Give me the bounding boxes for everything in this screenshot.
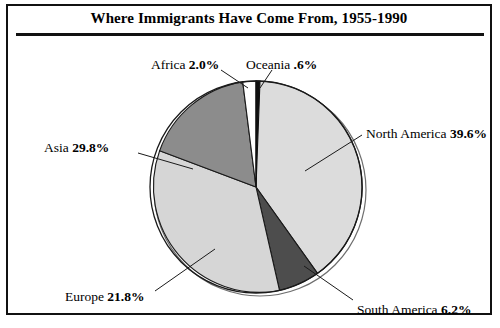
chart-frame: Where Immigrants Have Come From, 1955-19… (6, 4, 492, 315)
pie-label-oceania-name: Oceania (246, 57, 290, 72)
pie-label-oceania-value: .6% (294, 57, 318, 72)
pie-label-south-america-value: 6.2% (441, 302, 471, 317)
pie-label-europe-name: Europe (65, 289, 104, 304)
pie-label-asia: Asia 29.8% (44, 141, 109, 155)
pie-label-europe: Europe 21.8% (65, 290, 144, 304)
pie-label-asia-value: 29.8% (72, 140, 109, 155)
pie-label-south-america-name: South America (357, 302, 438, 317)
pie-chart-plot-area: Africa 2.0% Oceania .6% North America 39… (8, 36, 490, 313)
pie-label-africa-value: 2.0% (189, 57, 219, 72)
pie-label-north-america-value: 39.6% (450, 126, 487, 141)
pie-label-north-america: North America 39.6% (366, 127, 487, 141)
pie-chart-graphic (8, 36, 490, 313)
pie-label-europe-value: 21.8% (107, 289, 144, 304)
chart-title: Where Immigrants Have Come From, 1955-19… (8, 10, 490, 27)
pie-label-north-america-name: North America (366, 126, 447, 141)
pie-label-south-america: South America 6.2% (357, 303, 471, 317)
pie-label-africa-name: Africa (151, 57, 185, 72)
pie-label-asia-name: Asia (44, 140, 69, 155)
pie-label-africa: Africa 2.0% (151, 58, 219, 72)
pie-label-oceania: Oceania .6% (246, 58, 317, 72)
